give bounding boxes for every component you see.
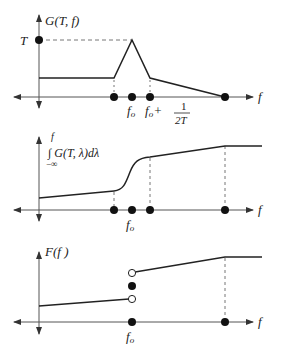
panel-top: G(T, f) T f fo fo+ 1 2T — [14, 13, 264, 126]
point — [221, 93, 229, 101]
filled-point-fo — [128, 282, 136, 290]
y-label: F(f ) — [44, 244, 68, 259]
frac-denominator: 2T — [175, 114, 188, 126]
tick-label-fo: fo — [127, 103, 136, 119]
open-circle-lower — [128, 295, 135, 302]
curve-F-left — [39, 299, 129, 306]
point-fo — [128, 206, 136, 214]
integral-label: ∫ G(T, λ)dλ — [47, 146, 99, 160]
point-fo — [128, 93, 136, 101]
point — [146, 206, 154, 214]
point — [110, 93, 118, 101]
panel-bottom: F(f ) f fo — [14, 244, 264, 345]
frac-numerator: 1 — [181, 100, 187, 112]
x-label: f — [258, 314, 264, 329]
integral-upper-limit: f — [51, 131, 55, 142]
point-T — [35, 36, 43, 44]
y-label: G(T, f) — [45, 13, 79, 28]
point — [221, 206, 229, 214]
point — [221, 318, 229, 326]
diagram-canvas: G(T, f) T f fo fo+ 1 2T f ∫ G(T, λ)dλ −∞… — [0, 0, 284, 361]
x-label: f — [258, 202, 264, 217]
integral-lower-limit: −∞ — [46, 159, 58, 169]
x-label: f — [258, 89, 264, 104]
tick-label-fo: fo — [126, 217, 135, 233]
point-fo — [128, 318, 136, 326]
panel-middle: f ∫ G(T, λ)dλ −∞ f fo — [14, 131, 264, 233]
point — [146, 93, 154, 101]
point — [110, 206, 118, 214]
curve-G — [39, 40, 225, 97]
tick-label-fo-plus: fo+ — [145, 103, 161, 119]
y-tick-label: T — [20, 33, 28, 48]
tick-label-fo: fo — [126, 329, 135, 345]
curve-F-right — [135, 257, 262, 272]
open-circle-upper — [128, 269, 135, 276]
